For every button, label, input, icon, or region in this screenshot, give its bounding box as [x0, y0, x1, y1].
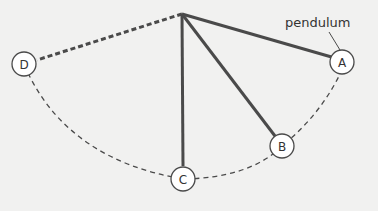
node-b: B	[270, 134, 294, 158]
string-to-c	[182, 14, 183, 166]
node-c: C	[171, 167, 195, 191]
svg-text:B: B	[278, 140, 286, 154]
svg-text:A: A	[338, 56, 347, 70]
node-a: A	[330, 50, 354, 74]
string-to-b	[182, 14, 275, 136]
node-d: D	[12, 52, 36, 76]
svg-text:C: C	[179, 173, 187, 187]
pendulum-label: pendulum	[285, 15, 351, 30]
string-to-d	[37, 14, 182, 60]
label-pointer	[329, 32, 340, 50]
svg-text:D: D	[19, 58, 28, 72]
pendulum-diagram: pendulum A B C D	[0, 0, 378, 211]
